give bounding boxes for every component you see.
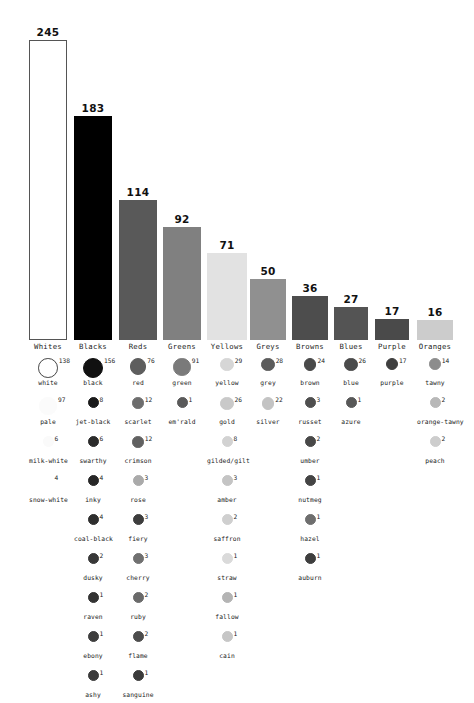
dot-marker-purple[interactable] <box>386 358 398 370</box>
dot-marker-grey[interactable] <box>261 358 274 371</box>
dot-entry[interactable]: 156black <box>74 358 112 397</box>
dot-marker-hazel[interactable] <box>305 514 316 525</box>
bar-column-reds[interactable]: 114 <box>119 0 157 340</box>
bar-column-oranges[interactable]: 16 <box>417 0 453 340</box>
dot-marker-green[interactable] <box>173 358 191 376</box>
dot-marker-scarlet[interactable] <box>132 397 144 409</box>
dot-marker-gold[interactable] <box>220 397 233 410</box>
dot-entry[interactable]: 1ebony <box>74 631 112 670</box>
dot-marker-milk-white[interactable] <box>43 436 54 447</box>
dot-marker-inky[interactable] <box>88 475 99 486</box>
bar-rect-purple[interactable] <box>375 319 409 340</box>
dot-marker-jet-black[interactable] <box>88 397 99 408</box>
dot-entry[interactable]: 1auburn <box>292 553 328 592</box>
dot-entry[interactable]: 138white <box>29 358 67 397</box>
dot-marker-peach[interactable] <box>430 436 441 447</box>
dot-entry[interactable]: 29yellow <box>207 358 247 397</box>
bar-rect-greens[interactable] <box>163 227 201 340</box>
dot-marker-auburn[interactable] <box>305 553 316 564</box>
bar-rect-yellows[interactable] <box>207 253 247 340</box>
bar-column-purple[interactable]: 17 <box>375 0 409 340</box>
dot-entry[interactable]: 1sanguine <box>119 670 157 703</box>
dot-entry[interactable]: 4snow-white <box>29 475 67 514</box>
dot-entry[interactable]: 2peach <box>417 436 453 475</box>
dot-marker-crimson[interactable] <box>132 436 144 448</box>
bar-rect-blues[interactable] <box>334 307 368 340</box>
bar-column-greys[interactable]: 50 <box>250 0 286 340</box>
dot-marker-flame[interactable] <box>133 631 144 642</box>
bar-column-greens[interactable]: 92 <box>163 0 201 340</box>
dot-marker-blue[interactable] <box>344 358 357 371</box>
dot-entry[interactable]: 3fiery <box>119 514 157 553</box>
dot-marker-ebony[interactable] <box>88 631 99 642</box>
dot-marker-cain[interactable] <box>222 631 233 642</box>
bar-rect-greys[interactable] <box>250 279 286 340</box>
dot-entry[interactable]: 26blue <box>334 358 368 397</box>
dot-marker-straw[interactable] <box>222 553 233 564</box>
dot-entry[interactable]: 76red <box>119 358 157 397</box>
dot-entry[interactable]: 26gold <box>207 397 247 436</box>
dot-marker-yellow[interactable] <box>220 358 233 371</box>
bar-rect-reds[interactable] <box>119 200 157 340</box>
dot-entry[interactable]: 8jet-black <box>74 397 112 436</box>
dot-entry[interactable]: 91green <box>163 358 201 397</box>
dot-entry[interactable]: 97pale <box>29 397 67 436</box>
dot-marker-fallow[interactable] <box>222 592 233 603</box>
dot-entry[interactable]: 2umber <box>292 436 328 475</box>
dot-entry[interactable]: 4coal-black <box>74 514 112 553</box>
dot-marker-red[interactable] <box>130 358 147 375</box>
dot-marker-russet[interactable] <box>305 397 316 408</box>
bar-column-blues[interactable]: 27 <box>334 0 368 340</box>
dot-marker-nutmeg[interactable] <box>305 475 316 486</box>
dot-marker-umber[interactable] <box>305 436 316 447</box>
dot-marker-white[interactable] <box>38 358 58 378</box>
dot-entry[interactable]: 4inky <box>74 475 112 514</box>
dot-entry[interactable]: 1hazel <box>292 514 328 553</box>
dot-marker-azure[interactable] <box>346 397 357 408</box>
bar-column-browns[interactable]: 36 <box>292 0 328 340</box>
dot-marker-gildedgilt[interactable] <box>222 436 233 447</box>
dot-entry[interactable]: 3cherry <box>119 553 157 592</box>
dot-marker-snow-white[interactable] <box>43 475 54 486</box>
dot-entry[interactable]: 14tawny <box>417 358 453 397</box>
dot-marker-raven[interactable] <box>88 592 99 603</box>
dot-entry[interactable]: 12crimson <box>119 436 157 475</box>
dot-entry[interactable]: 1straw <box>207 553 247 592</box>
dot-entry[interactable]: 2orange-tawny <box>417 397 453 436</box>
bar-rect-whites[interactable] <box>29 40 67 340</box>
bar-rect-browns[interactable] <box>292 296 328 340</box>
dot-entry[interactable]: 3rose <box>119 475 157 514</box>
dot-marker-dusky[interactable] <box>88 553 99 564</box>
dot-marker-black[interactable] <box>83 358 103 378</box>
dot-marker-fiery[interactable] <box>133 514 144 525</box>
dot-entry[interactable]: 8gilded/gilt <box>207 436 247 475</box>
bar-rect-blacks[interactable] <box>74 116 112 340</box>
dot-entry[interactable]: 1em'rald <box>163 397 201 436</box>
dot-entry[interactable]: 2ruby <box>119 592 157 631</box>
bar-column-whites[interactable]: 245 <box>29 0 67 340</box>
dot-marker-ruby[interactable] <box>133 592 144 603</box>
dot-marker-saffron[interactable] <box>222 514 233 525</box>
dot-entry[interactable]: 1fallow <box>207 592 247 631</box>
dot-entry[interactable]: 1azure <box>334 397 368 436</box>
dot-entry[interactable]: 1raven <box>74 592 112 631</box>
dot-marker-sanguine[interactable] <box>133 670 144 681</box>
dot-marker-brown[interactable] <box>304 358 317 371</box>
dot-entry[interactable]: 2saffron <box>207 514 247 553</box>
dot-marker-tawny[interactable] <box>429 358 441 370</box>
bar-column-yellows[interactable]: 71 <box>207 0 247 340</box>
dot-entry[interactable]: 2flame <box>119 631 157 670</box>
dot-marker-pale[interactable] <box>39 397 57 415</box>
dot-marker-swarthy[interactable] <box>88 436 99 447</box>
dot-entry[interactable]: 17purple <box>375 358 409 397</box>
dot-marker-coal-black[interactable] <box>88 514 99 525</box>
bar-rect-oranges[interactable] <box>417 320 453 340</box>
dot-marker-ashy[interactable] <box>88 670 99 681</box>
bar-column-blacks[interactable]: 183 <box>74 0 112 340</box>
dot-marker-cherry[interactable] <box>133 553 144 564</box>
dot-marker-orange-tawny[interactable] <box>430 397 441 408</box>
dot-entry[interactable]: 28grey <box>250 358 286 397</box>
dot-entry[interactable]: 12scarlet <box>119 397 157 436</box>
dot-entry[interactable]: 6swarthy <box>74 436 112 475</box>
dot-entry[interactable]: 2dusky <box>74 553 112 592</box>
